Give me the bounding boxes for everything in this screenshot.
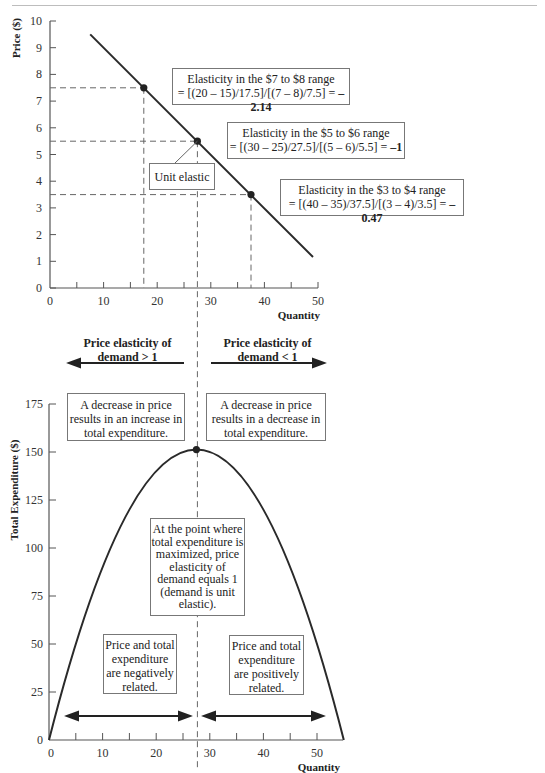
svg-text:30: 30 bbox=[205, 294, 217, 308]
box-line: Elasticity in the $3 to $4 range bbox=[281, 183, 463, 197]
svg-text:30: 30 bbox=[204, 746, 216, 760]
max-expenditure-point bbox=[193, 446, 200, 453]
svg-text:5: 5 bbox=[36, 148, 42, 162]
svg-text:0: 0 bbox=[37, 733, 43, 747]
svg-text:50: 50 bbox=[311, 746, 323, 760]
svg-text:0: 0 bbox=[36, 281, 42, 295]
svg-text:75: 75 bbox=[31, 589, 43, 603]
svg-text:0: 0 bbox=[47, 294, 53, 308]
svg-text:50: 50 bbox=[312, 294, 324, 308]
svg-text:2: 2 bbox=[36, 228, 42, 242]
inelastic-effect-box: A decrease in price results in a decreas… bbox=[206, 393, 326, 441]
svg-text:4: 4 bbox=[36, 174, 42, 188]
svg-text:0: 0 bbox=[48, 746, 54, 760]
svg-text:9: 9 bbox=[36, 41, 42, 55]
svg-text:20: 20 bbox=[150, 746, 162, 760]
elastic-effect-box: A decrease in price results in an increa… bbox=[67, 393, 185, 441]
expenditure-tick-labels: 0 25 50 75 100 125 150 175 bbox=[25, 397, 43, 747]
svg-text:10: 10 bbox=[30, 14, 42, 28]
unit-elastic-label: Unit elastic bbox=[149, 163, 215, 190]
elastic-region-heading-full: Price elasticity of demand > 1 bbox=[70, 336, 185, 364]
expenditure-axis-title: Total Expenditure ($) bbox=[8, 439, 21, 540]
svg-text:6: 6 bbox=[36, 121, 42, 135]
quantity-tick-labels: 0 10 20 30 40 50 bbox=[47, 294, 324, 308]
elasticity-box-5-6: Elasticity in the $5 to $6 range = [(30 … bbox=[227, 122, 405, 159]
svg-text:1: 1 bbox=[36, 254, 42, 268]
box-line: = [(20 – 15)/17.5]/[(7 – 8)/7.5] = –2.14 bbox=[173, 86, 349, 114]
price-axis-title: Price ($) bbox=[10, 18, 23, 58]
svg-text:10: 10 bbox=[97, 746, 109, 760]
svg-text:20: 20 bbox=[151, 294, 163, 308]
svg-text:175: 175 bbox=[25, 397, 43, 411]
svg-text:8: 8 bbox=[36, 67, 42, 81]
positive-relation-box: Price and total expenditure are positive… bbox=[229, 635, 304, 695]
elasticity-box-7-8: Elasticity in the $7 to $8 range = [(20 … bbox=[172, 68, 350, 105]
box-line: = [(30 – 25)/27.5]/[(5 – 6)/5.5] = –1 bbox=[228, 140, 404, 154]
svg-text:125: 125 bbox=[25, 493, 43, 507]
svg-text:10: 10 bbox=[98, 294, 110, 308]
price-tick-labels: 0 1 2 3 4 5 6 7 8 9 10 bbox=[30, 14, 42, 295]
quantity-axis-title-bottom: Quantity bbox=[298, 761, 341, 773]
unit-elastic-pointer bbox=[175, 141, 197, 163]
svg-text:3: 3 bbox=[36, 201, 42, 215]
svg-text:40: 40 bbox=[258, 294, 270, 308]
box-line: Elasticity in the $7 to $8 range bbox=[173, 72, 349, 86]
point-7-8 bbox=[140, 84, 147, 91]
unit-elastic-max-box: At the point where total expenditure is … bbox=[150, 518, 245, 616]
box-line: = [(40 – 35)/37.5]/[(3 – 4)/3.5] = –0.47 bbox=[281, 197, 463, 225]
point-3-4 bbox=[247, 191, 254, 198]
box-line: Elasticity in the $5 to $6 range bbox=[228, 126, 404, 140]
inelastic-region-heading: Price elasticity of demand < 1 bbox=[210, 336, 325, 364]
negative-relation-box: Price and total expenditure are negative… bbox=[103, 634, 177, 694]
quantity-tick-labels-bottom: 0 10 20 30 40 50 bbox=[48, 746, 323, 760]
elasticity-box-3-4: Elasticity in the $3 to $4 range = [(40 … bbox=[280, 179, 464, 216]
svg-text:40: 40 bbox=[257, 746, 269, 760]
svg-text:25: 25 bbox=[31, 685, 43, 699]
svg-text:50: 50 bbox=[31, 637, 43, 651]
svg-text:150: 150 bbox=[25, 445, 43, 459]
svg-text:100: 100 bbox=[25, 541, 43, 555]
svg-text:7: 7 bbox=[36, 94, 42, 108]
quantity-axis-title: Quantity bbox=[278, 309, 321, 321]
